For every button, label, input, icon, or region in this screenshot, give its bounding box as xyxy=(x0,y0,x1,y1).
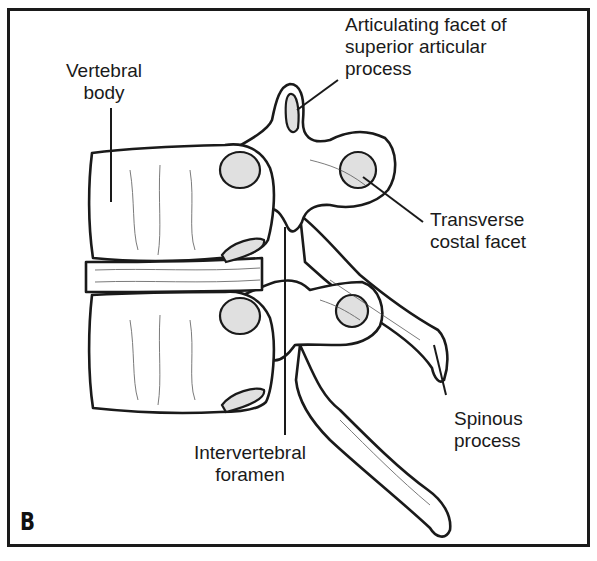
intervertebral-disc xyxy=(86,258,262,292)
label-intervertebral-foramen: Intervertebral foramen xyxy=(194,442,306,486)
articulating-facet-superior xyxy=(286,94,299,132)
upper-costal-facet xyxy=(220,152,260,188)
lower-costal-facet xyxy=(220,298,260,334)
label-articulating-facet: Articulating facet of superior articular… xyxy=(345,14,507,80)
lower-spinous-process xyxy=(296,345,450,537)
label-spinous-process: Spinous process xyxy=(454,408,523,452)
lower-transverse-costal-facet xyxy=(336,295,368,327)
leader-articulating-facet xyxy=(297,80,338,110)
panel-letter: B xyxy=(20,508,35,536)
label-transverse-costal-facet: Transverse costal facet xyxy=(430,209,526,253)
label-vertebral-body: Vertebral body xyxy=(66,60,142,104)
